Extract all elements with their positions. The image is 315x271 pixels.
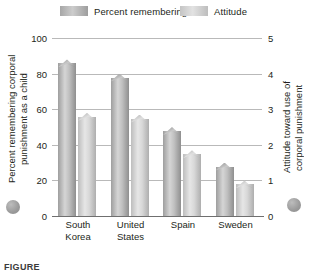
bar-group — [163, 38, 208, 216]
plot-area: 020406080100 012345 South KoreaUnited St… — [52, 38, 262, 216]
bar-body — [78, 117, 96, 216]
bar-body — [111, 78, 129, 216]
figure-caption: FIGURE — [4, 262, 40, 271]
bar-percent-remembering — [216, 163, 234, 216]
right-tick-label: 4 — [268, 68, 273, 79]
left-axis-bullet-icon — [6, 200, 20, 214]
category-label: United States — [105, 219, 157, 242]
right-tick-label: 2 — [268, 139, 273, 150]
legend-item-percent-remembering: Percent remembering — [60, 4, 187, 18]
bar-body — [183, 154, 201, 216]
category-label: South Korea — [52, 219, 104, 242]
bar-group — [216, 38, 261, 216]
left-tick-label: 40 — [36, 139, 47, 150]
bar-attitude — [78, 113, 96, 216]
right-tick-label: 5 — [268, 33, 273, 44]
right-tick-label: 1 — [268, 175, 273, 186]
legend-item-attitude: Attitude — [180, 4, 247, 18]
right-tick-label: 0 — [268, 211, 273, 222]
bar-body — [131, 119, 149, 216]
legend-label-attitude: Attitude — [214, 6, 247, 17]
bar-group — [58, 38, 103, 216]
bar-percent-remembering — [163, 127, 181, 216]
chart-container: Percent remembering Attitude Percent rem… — [0, 0, 315, 271]
legend-swatch-percent-remembering — [60, 6, 88, 16]
bar-body — [58, 63, 76, 216]
bar-body — [236, 184, 254, 216]
chart-legend: Percent remembering Attitude — [60, 4, 295, 18]
bar-percent-remembering — [58, 59, 76, 216]
bar-attitude — [131, 115, 149, 216]
bar-body — [163, 131, 181, 216]
bar-attitude — [183, 150, 201, 216]
left-tick-label: 60 — [36, 104, 47, 115]
category-label: Sweden — [210, 219, 262, 231]
axis-baseline — [52, 216, 264, 217]
legend-label-percent-remembering: Percent remembering — [94, 6, 187, 17]
bar-body — [216, 167, 234, 216]
legend-swatch-attitude — [180, 6, 208, 16]
right-tick-label: 3 — [268, 104, 273, 115]
bar-group — [111, 38, 156, 216]
right-axis-bullet-icon — [287, 198, 301, 212]
left-tick-label: 80 — [36, 68, 47, 79]
left-tick-label: 0 — [42, 211, 47, 222]
bar-attitude — [236, 180, 254, 216]
category-label: Spain — [157, 219, 209, 231]
left-axis-title: Percent remembering corporal punishment … — [6, 44, 30, 194]
left-tick-label: 20 — [36, 175, 47, 186]
bar-percent-remembering — [111, 74, 129, 216]
left-tick-label: 100 — [31, 33, 47, 44]
right-axis-title: Attitude toward use of corporal punishme… — [281, 70, 305, 185]
